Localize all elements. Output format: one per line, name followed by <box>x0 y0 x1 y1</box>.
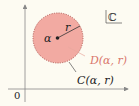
origin-label: 0 <box>14 90 20 101</box>
complex-plane-figure: α r D(α, r) C(α, r) 0 ℂ <box>0 0 139 106</box>
diagram-canvas: α r D(α, r) C(α, r) 0 ℂ <box>0 0 139 106</box>
disk-label: D(α, r) <box>89 54 127 67</box>
circle-leader-line <box>69 62 76 72</box>
radius-label: r <box>65 21 71 34</box>
plane-symbol: ℂ <box>108 11 117 24</box>
center-label: α <box>44 32 52 45</box>
center-point <box>56 36 60 40</box>
circle-label: C(α, r) <box>77 74 114 87</box>
